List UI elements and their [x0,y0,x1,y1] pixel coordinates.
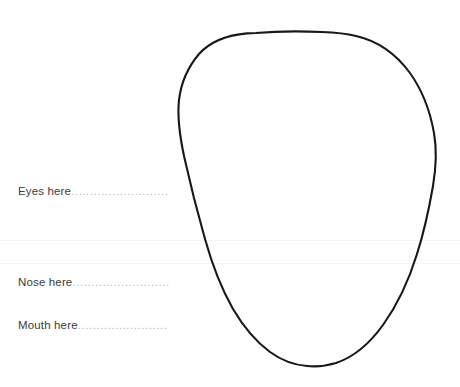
label-text-mouth: Mouth here [18,317,78,333]
face-template-canvas: Eyes here .......................... Nos… [0,0,460,387]
label-row-nose: Nose here .......................... [18,274,170,290]
label-leader-eyes: .......................... [71,183,168,199]
label-leader-nose: .......................... [72,274,169,290]
label-leader-mouth: ........................ [78,317,168,333]
face-outline-path [178,31,435,366]
label-row-mouth: Mouth here ........................ [18,317,168,333]
label-text-nose: Nose here [18,274,72,290]
label-row-eyes: Eyes here .......................... [18,183,169,199]
label-text-eyes: Eyes here [18,183,71,199]
